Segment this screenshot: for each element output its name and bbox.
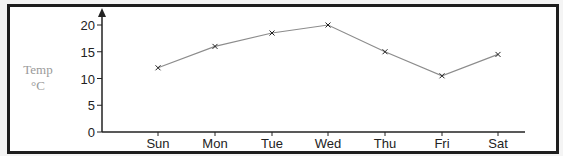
y-tick-label: 20	[81, 18, 95, 33]
y-tick-label: 15	[81, 45, 95, 60]
x-axis: SunMonTueWedThuFriSat	[102, 132, 525, 151]
data-point-marker-icon	[383, 49, 388, 54]
y-tick-label: 5	[88, 98, 95, 113]
series-line	[158, 25, 498, 76]
x-tick-label: Mon	[202, 136, 227, 151]
y-axis: 05101520	[81, 8, 106, 140]
x-tick-label: Fri	[434, 136, 449, 151]
y-tick-label: 10	[81, 72, 95, 87]
data-series	[156, 23, 501, 79]
line-chart: Temp °C 05101520 SunMonTueWedThuFriSat	[0, 0, 563, 156]
y-axis-arrow-icon	[98, 8, 106, 17]
x-tick-label: Thu	[374, 136, 396, 151]
data-point-marker-icon	[156, 65, 161, 70]
y-axis-label-line1: Temp	[23, 62, 52, 77]
y-tick-label: 0	[88, 125, 95, 140]
x-tick-label: Sun	[146, 136, 169, 151]
y-axis-label: Temp °C	[23, 62, 52, 93]
x-tick-label: Tue	[261, 136, 283, 151]
x-tick-label: Sat	[488, 136, 508, 151]
x-tick-label: Wed	[315, 136, 342, 151]
y-axis-label-line2: °C	[31, 78, 45, 93]
data-point-marker-icon	[440, 73, 445, 78]
data-point-marker-icon	[496, 52, 501, 57]
